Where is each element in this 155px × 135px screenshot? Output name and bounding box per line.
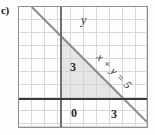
part-label: c) bbox=[1, 4, 9, 16]
figure-panel: c) y x 3 0 3 x + y = 5 bbox=[0, 0, 155, 135]
x-axis-line bbox=[19, 98, 148, 100]
y-axis-line bbox=[60, 7, 62, 128]
y-axis-label: y bbox=[81, 13, 86, 28]
x-axis-tick-label-3: 3 bbox=[111, 107, 117, 122]
y-axis-tick-label-3: 3 bbox=[70, 60, 76, 75]
plot-area: y x 3 0 3 x + y = 5 bbox=[18, 6, 148, 128]
origin-tick-label: 0 bbox=[71, 106, 77, 121]
